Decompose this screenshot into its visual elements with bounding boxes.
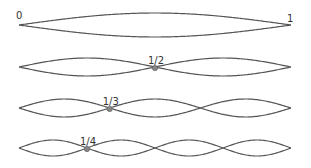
lower-envelope xyxy=(19,99,291,117)
mode-3: 1/3 xyxy=(19,96,291,117)
endpoint-label-right: 1 xyxy=(287,13,293,24)
standing-wave-diagram: 1/21/31/4 0 1 xyxy=(0,0,311,168)
upper-envelope xyxy=(19,99,291,117)
modes-group: 1/21/31/4 xyxy=(19,13,291,156)
node-label: 1/4 xyxy=(80,136,96,147)
mode-1 xyxy=(19,13,291,37)
node-marker xyxy=(152,65,157,70)
upper-envelope xyxy=(19,13,291,25)
lower-envelope xyxy=(19,140,291,156)
node-label: 1/3 xyxy=(103,96,119,107)
mode-2: 1/2 xyxy=(19,55,291,76)
node-marker xyxy=(84,146,89,151)
endpoint-label-left: 0 xyxy=(16,10,22,21)
node-label: 1/2 xyxy=(148,55,164,66)
node-marker xyxy=(107,106,112,111)
mode-4: 1/4 xyxy=(19,136,291,156)
lower-envelope xyxy=(19,25,291,37)
